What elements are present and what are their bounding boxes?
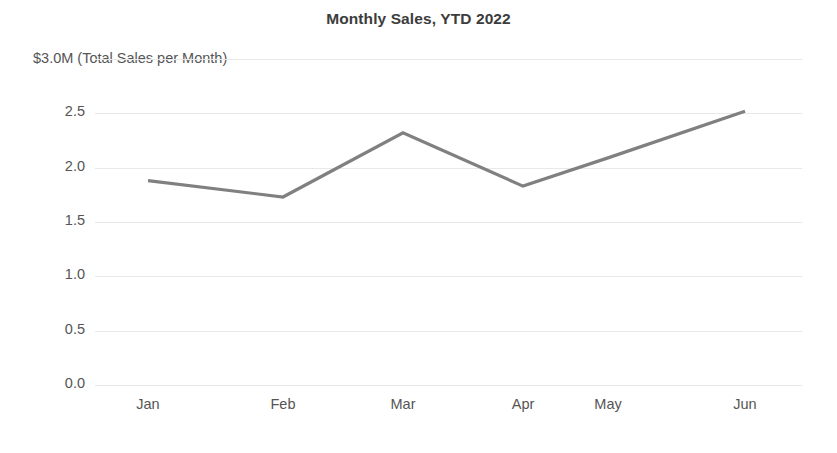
y-axis-tick-label: 1.5 xyxy=(25,212,85,228)
line-chart: Monthly Sales, YTD 2022 $3.0M (Total Sal… xyxy=(0,0,837,453)
y-axis-tick-label: 1.0 xyxy=(25,266,85,282)
x-axis-tick-label: Apr xyxy=(512,396,535,412)
chart-title: Monthly Sales, YTD 2022 xyxy=(0,10,837,28)
gridline xyxy=(95,331,802,332)
y-axis-tick-label: 0.0 xyxy=(25,375,85,391)
x-axis-tick-label: Jan xyxy=(136,396,159,412)
gridline xyxy=(95,168,802,169)
y-axis-tick-label: 0.5 xyxy=(25,321,85,337)
x-axis-tick-label: May xyxy=(594,396,621,412)
x-axis-tick-label: Jun xyxy=(733,396,756,412)
y-axis-tick-label: 2.5 xyxy=(25,103,85,119)
gridline xyxy=(95,222,802,223)
gridline xyxy=(95,59,802,60)
x-axis-tick-label: Feb xyxy=(271,396,296,412)
gridline xyxy=(95,385,802,386)
y-axis-top-label: $3.0M (Total Sales per Month) xyxy=(33,50,227,66)
sales-line-series xyxy=(148,111,745,197)
gridline xyxy=(95,113,802,114)
gridline xyxy=(95,276,802,277)
x-axis-tick-label: Mar xyxy=(391,396,416,412)
y-axis-tick-label: 2.0 xyxy=(25,158,85,174)
